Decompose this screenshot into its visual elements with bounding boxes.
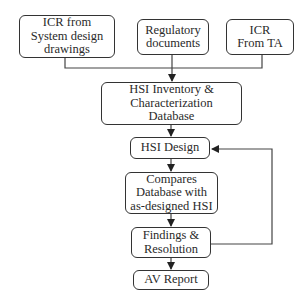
feedback-loop-arrow bbox=[211, 149, 272, 244]
av-report-box: AV Report bbox=[133, 270, 209, 290]
connector-icr-ta bbox=[172, 54, 262, 68]
connector-icr-system bbox=[65, 57, 172, 68]
regulatory-documents-box: Regulatory documents bbox=[137, 19, 209, 55]
findings-resolution-box: Findings & Resolution bbox=[131, 227, 211, 258]
icr-from-ta-box: ICR From TA bbox=[226, 19, 294, 55]
icr-system-design-box: ICR from System design drawings bbox=[19, 15, 115, 58]
compares-box: Compares Database with as-designed HSI bbox=[125, 172, 218, 214]
hsi-inventory-box: HSI Inventory & Characterization Databas… bbox=[101, 82, 242, 125]
hsi-design-box: HSI Design bbox=[130, 137, 210, 159]
